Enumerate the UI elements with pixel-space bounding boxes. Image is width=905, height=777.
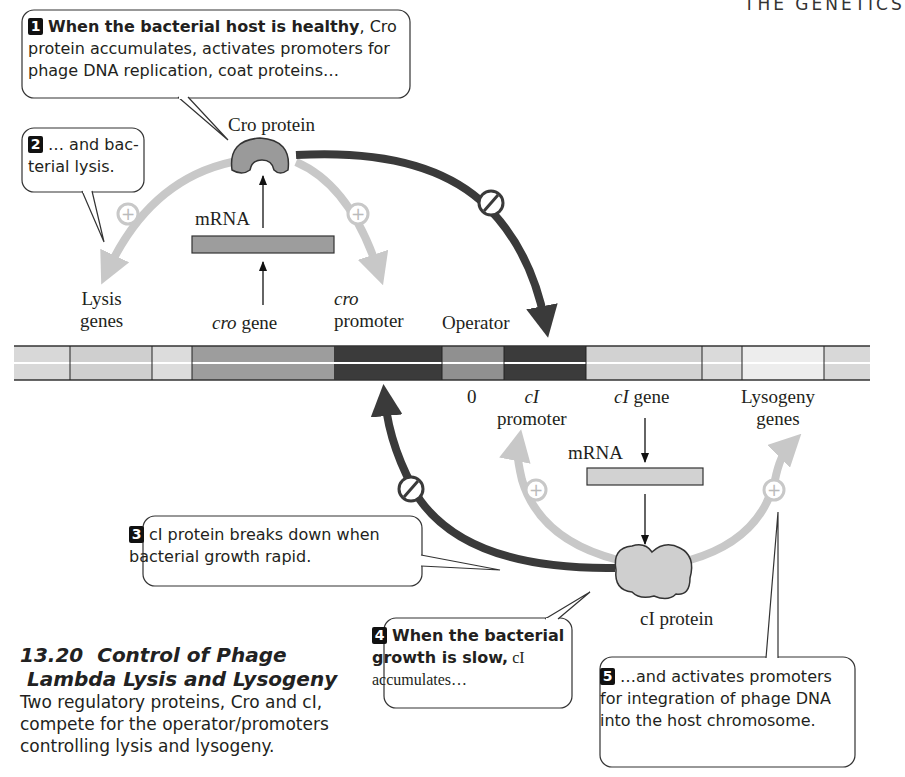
svg-text:+: + — [529, 480, 543, 500]
step-badge-5: 5 — [600, 668, 615, 685]
figure-caption: Two regulatory proteins, Cro and cI, com… — [20, 691, 360, 757]
lysogeny-genes-label: Lysogenygenes — [741, 386, 815, 430]
cro-promoter-label: cropromoter — [334, 288, 404, 332]
ci-gene-label: cI gene — [614, 386, 669, 408]
ci-protein-shape — [615, 545, 691, 599]
callout-3: 3cI protein breaks down when bacterial g… — [129, 524, 419, 568]
ci-protein-label: cI protein — [640, 608, 713, 630]
step-badge-1: 1 — [28, 18, 43, 35]
step-badge-2: 2 — [28, 136, 43, 153]
operator-zero-label: 0 — [467, 386, 477, 408]
dna-strip — [14, 346, 870, 380]
cro-gene-label: cro gene — [212, 312, 277, 334]
svg-text:+: + — [121, 204, 135, 224]
step-badge-4: 4 — [372, 627, 387, 644]
callout-5: 5…and activates promoters for integratio… — [600, 666, 852, 732]
operator-label: Operator — [442, 312, 510, 334]
cro-protein-shape — [232, 138, 289, 173]
callout-1: 1When the bacterial host is healthy, Cro… — [28, 16, 408, 82]
figure-title: 13.20 Control of Phage Lambda Lysis and … — [20, 643, 337, 691]
step-badge-3: 3 — [129, 526, 144, 543]
lysis-genes-label: Lysisgenes — [80, 288, 123, 332]
cro-protein-label: Cro protein — [228, 114, 315, 136]
cro-mrna-label: mRNA — [195, 208, 250, 230]
ci-promoter-label: cIpromoter — [497, 386, 567, 430]
ci-mrna-label: mRNA — [568, 442, 623, 464]
svg-text:+: + — [351, 204, 365, 224]
svg-text:+: + — [767, 480, 781, 500]
callout-2: 2… and bac-terial lysis. — [28, 134, 142, 178]
callout-4: 4When the bacterial growth is slow, cI a… — [372, 625, 570, 691]
